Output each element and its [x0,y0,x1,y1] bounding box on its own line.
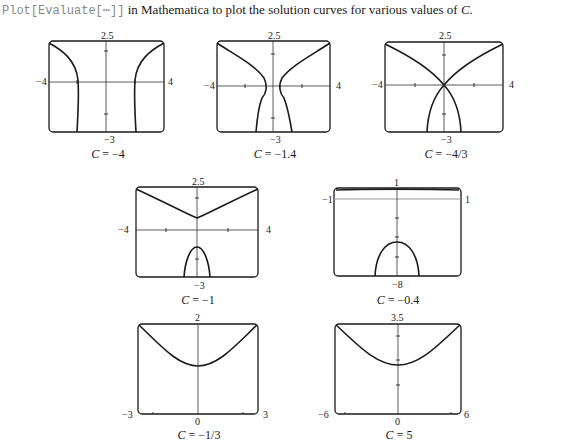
xtick-min: −6 [318,410,329,420]
plot-c-5-graphic [0,0,566,440]
xtick-max: 6 [464,410,469,420]
caption: C = 5 [386,429,413,440]
ytick-max: 3.5 [391,313,404,323]
xtick-mid: 0 [395,417,400,427]
